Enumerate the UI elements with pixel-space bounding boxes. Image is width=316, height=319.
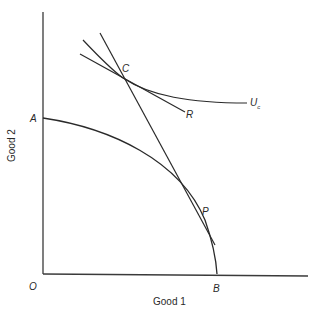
label-c: C xyxy=(122,63,129,74)
label-r: R xyxy=(186,109,193,120)
diagram-canvas xyxy=(0,0,316,319)
x-axis-title: Good 1 xyxy=(153,296,186,307)
x-axis xyxy=(43,274,308,276)
label-uc: Uc xyxy=(250,97,260,110)
label-uc-sub: c xyxy=(257,104,260,110)
label-a: A xyxy=(30,113,37,124)
indifference-curve-uc xyxy=(83,40,247,103)
y-axis-title: Good 2 xyxy=(6,129,17,162)
production-possibility-curve xyxy=(43,118,217,274)
label-origin: O xyxy=(29,281,37,292)
label-p: P xyxy=(202,206,209,217)
label-b: B xyxy=(213,283,220,294)
